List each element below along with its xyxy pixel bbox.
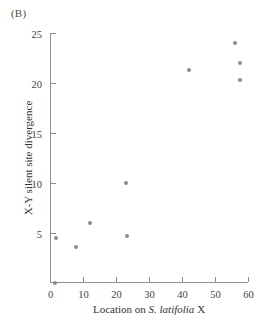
y-tick-5: 5	[50, 233, 56, 234]
x-axis-title-species: S. latifolia	[149, 303, 195, 315]
plot-area: 510152025 0102030405060	[50, 33, 248, 283]
x-tick-50: 50	[215, 277, 216, 283]
y-tick-mark	[51, 233, 56, 234]
data-point	[124, 181, 128, 185]
y-axis-title: X-Y silent site divergence	[22, 33, 38, 283]
data-point	[187, 68, 191, 72]
x-tick-label: 30	[144, 289, 155, 300]
x-tick-mark	[182, 277, 183, 282]
x-axis-title-suffix: X	[194, 303, 205, 315]
data-point	[53, 281, 57, 285]
x-tick-label: 20	[111, 289, 122, 300]
x-tick-10: 10	[83, 277, 84, 283]
x-axis-title-prefix: Location on	[93, 303, 149, 315]
x-tick-label: 40	[177, 289, 188, 300]
y-tick-mark	[51, 133, 56, 134]
data-point	[125, 234, 129, 238]
y-tick-mark	[51, 33, 56, 34]
x-tick-mark	[215, 277, 216, 282]
x-tick-label: 60	[243, 289, 254, 300]
data-point	[88, 221, 92, 225]
x-axis-title: Location on S. latifolia X	[50, 303, 248, 315]
x-tick-mark	[50, 277, 51, 282]
y-tick-20: 20	[50, 83, 56, 84]
x-tick-60: 60	[248, 277, 249, 283]
x-tick-label: 50	[210, 289, 221, 300]
y-tick-10: 10	[50, 183, 56, 184]
x-tick-20: 20	[116, 277, 117, 283]
x-tick-30: 30	[149, 277, 150, 283]
data-point	[74, 245, 78, 249]
x-tick-mark	[83, 277, 84, 282]
y-tick-mark	[51, 83, 56, 84]
y-axis-line	[50, 33, 51, 283]
data-point	[238, 61, 242, 65]
scatter-plot-figure: (B) 510152025 0102030405060 Location on …	[0, 0, 268, 326]
data-point	[238, 78, 242, 82]
x-tick-label: 10	[78, 289, 89, 300]
x-tick-mark	[116, 277, 117, 282]
panel-label: (B)	[11, 7, 26, 19]
data-point	[54, 236, 58, 240]
x-tick-0: 0	[50, 277, 51, 283]
y-tick-15: 15	[50, 133, 56, 134]
y-tick-25: 25	[50, 33, 56, 34]
x-tick-label: 0	[48, 289, 53, 300]
data-point	[233, 41, 237, 45]
x-tick-mark	[149, 277, 150, 282]
x-tick-40: 40	[182, 277, 183, 283]
x-tick-mark	[248, 277, 249, 282]
y-tick-mark	[51, 183, 56, 184]
